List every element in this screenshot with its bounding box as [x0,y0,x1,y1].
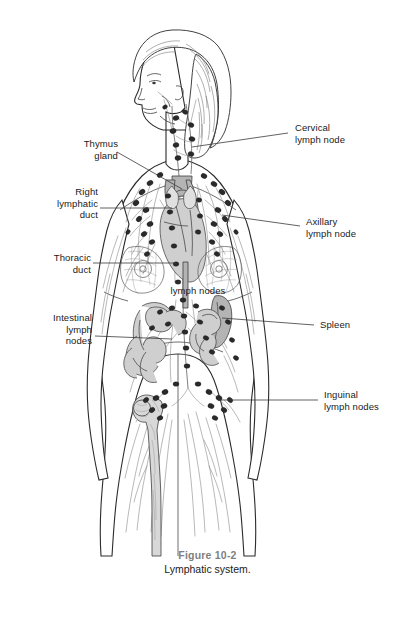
label-intestinal-lymph-nodes: Intestinal lymph nodes [12,312,92,347]
figure-number: Figure 10-2 [0,549,415,562]
label-thymus-gland: Thymus gland [40,138,118,161]
label-right-lymphatic-duct: Right lymphatic duct [18,186,98,221]
label-lymph-nodes: lymph nodes [155,285,241,297]
head-group [133,30,231,170]
label-spleen: Spleen [320,319,400,331]
figure-title: Lymphatic system. [0,562,415,576]
label-cervical-lymph-node: Cervical lymph node [295,122,405,145]
label-inguinal-lymph-nodes: Inguinal lymph nodes [324,389,412,412]
label-axillary-lymph-node: Axillary lymph node [306,216,414,239]
figure-caption: Figure 10-2 Lymphatic system. [0,549,415,576]
lymphatic-system-figure: Thymus gland Right lymphatic duct Thorac… [0,0,415,619]
anatomical-illustration [0,0,415,619]
label-thoracic-duct: Thoracic duct [18,252,91,275]
